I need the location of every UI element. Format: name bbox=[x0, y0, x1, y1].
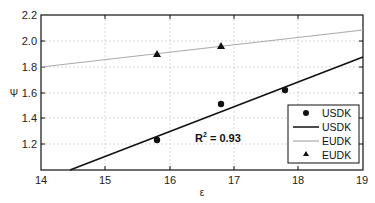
eudk-fit-line bbox=[41, 30, 363, 67]
y-tick: 2.0 bbox=[22, 35, 37, 47]
x-tick: 18 bbox=[292, 174, 304, 186]
y-tick: 2.2 bbox=[22, 9, 37, 21]
y-tick: 1.8 bbox=[22, 61, 37, 73]
x-tick: 14 bbox=[35, 174, 47, 186]
legend-label: EUDK bbox=[322, 149, 351, 161]
x-axis-label: ε bbox=[200, 187, 205, 198]
y-tick: 1.2 bbox=[22, 138, 37, 150]
y-tick: 1.6 bbox=[22, 87, 37, 99]
legend: USDK USDK EUDK EUDK bbox=[288, 105, 359, 163]
x-tick-labels: 14 15 16 17 18 19 bbox=[35, 174, 368, 186]
x-tick: 19 bbox=[356, 174, 368, 186]
y-tick-labels: 1.2 1.4 1.6 1.8 2.0 2.2 bbox=[22, 9, 37, 150]
r2-annotation: R2 = 0.93 bbox=[195, 131, 241, 144]
y-axis-label: Ψ bbox=[10, 88, 18, 99]
y-tick: 1.4 bbox=[22, 112, 37, 124]
chart: 14 15 16 17 18 19 1.2 1.4 1.6 1.8 2.0 2.… bbox=[0, 0, 375, 203]
x-tick: 16 bbox=[164, 174, 176, 186]
x-tick: 15 bbox=[99, 174, 111, 186]
legend-circle-icon bbox=[303, 110, 309, 116]
legend-label: EUDK bbox=[322, 135, 351, 147]
x-tick: 17 bbox=[228, 174, 240, 186]
legend-label: USDK bbox=[322, 107, 351, 119]
legend-label: USDK bbox=[322, 121, 351, 133]
